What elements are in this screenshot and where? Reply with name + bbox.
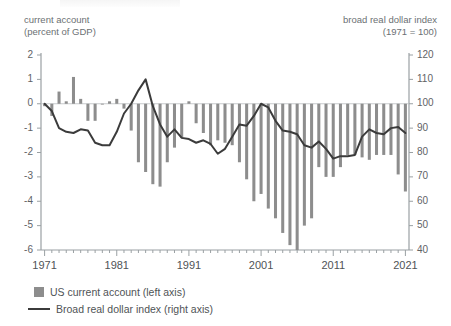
y-tick-right-80: 80 xyxy=(417,147,451,157)
legend-bar-swatch xyxy=(34,287,44,297)
legend-item-current-account: US current account (left axis) xyxy=(34,286,185,298)
chart-plot-area xyxy=(0,0,451,326)
legend-bar-label: US current account (left axis) xyxy=(50,286,185,298)
x-tick-1991: 1991 xyxy=(177,259,201,271)
y-tick-right-120: 120 xyxy=(417,50,451,60)
y-tick-left--5: -5 xyxy=(0,220,33,230)
y-tick-left-2: 2 xyxy=(0,50,33,60)
y-tick-left-1: 1 xyxy=(0,74,33,84)
y-tick-right-50: 50 xyxy=(417,220,451,230)
chart-container: current account (percent of GDP) broad r… xyxy=(0,0,451,326)
y-tick-left--6: -6 xyxy=(0,245,33,255)
x-tick-1971: 1971 xyxy=(32,259,56,271)
legend-item-dollar-index: Broad real dollar index (right axis) xyxy=(28,303,213,315)
y-tick-left--4: -4 xyxy=(0,196,33,206)
y-tick-right-110: 110 xyxy=(417,74,451,84)
x-tick-2001: 2001 xyxy=(249,259,273,271)
y-tick-right-90: 90 xyxy=(417,123,451,133)
x-tick-2011: 2011 xyxy=(321,259,345,271)
y-tick-right-100: 100 xyxy=(417,98,451,108)
y-tick-right-60: 60 xyxy=(417,196,451,206)
legend-line-label: Broad real dollar index (right axis) xyxy=(56,303,213,315)
y-tick-left--2: -2 xyxy=(0,147,33,157)
y-tick-left--3: -3 xyxy=(0,171,33,181)
x-tick-1981: 1981 xyxy=(105,259,129,271)
y-tick-right-70: 70 xyxy=(417,171,451,181)
x-tick-2021: 2021 xyxy=(393,259,417,271)
y-tick-right-40: 40 xyxy=(417,245,451,255)
y-tick-left--1: -1 xyxy=(0,123,33,133)
y-tick-left-0: 0 xyxy=(0,98,33,108)
legend-line-swatch xyxy=(28,308,50,311)
